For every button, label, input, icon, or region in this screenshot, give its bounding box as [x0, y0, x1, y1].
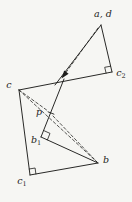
dashed-segment-c-b: [19, 90, 97, 162]
point-label-ad: a, d: [94, 9, 112, 19]
point-label-subscript-c2: 2: [122, 72, 126, 80]
point-label-subscript-b1: 1: [37, 139, 41, 147]
point-label-subscript-c1: 1: [23, 180, 27, 188]
solid-segment-c-c1: [19, 90, 30, 175]
point-label-b1: b1: [31, 135, 41, 147]
point-label-base-c: c: [6, 79, 11, 90]
point-label-c1: c1: [17, 176, 26, 188]
point-label-c2: c2: [116, 68, 125, 80]
point-label-base-b: b: [103, 154, 109, 165]
solid-segment-b1-b: [41, 137, 98, 163]
point-label-base-ad: a, d: [94, 8, 112, 19]
dashed-segment-p-b: [53, 116, 97, 162]
figure-page: a, dc2cpb1bc1: [0, 0, 132, 202]
point-label-base-p: p: [36, 106, 42, 117]
point-label-p: p: [36, 107, 42, 117]
solid-segment-ad-c2: [101, 25, 112, 72]
point-label-b: b: [103, 155, 109, 165]
dashed-segment-c-p: [19, 90, 48, 111]
solid-segment-c1-b: [30, 163, 98, 175]
point-label-c: c: [6, 80, 11, 90]
geometry-figure: [0, 0, 132, 202]
